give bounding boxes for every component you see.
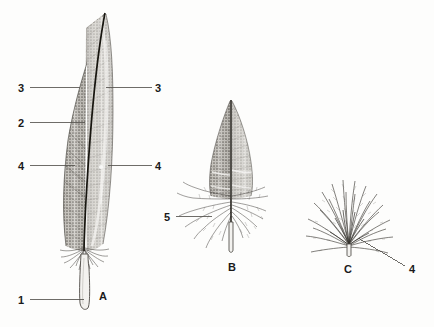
callout-a-4-right: 4	[155, 161, 161, 172]
callout-a-4-left: 4	[18, 161, 24, 172]
callout-a-3-left: 3	[18, 83, 24, 94]
feather-b-vane-right	[230, 96, 258, 204]
leader-c-4-right	[358, 238, 405, 266]
callout-c-4-right: 4	[409, 264, 415, 275]
plate-label-b: B	[228, 262, 236, 273]
plate-label-c: C	[344, 264, 352, 275]
plate-label-a: A	[99, 291, 107, 302]
callout-a-3-right: 3	[155, 83, 161, 94]
feather-b-group	[177, 96, 268, 252]
feather-anatomy-figure: 3 3 2 4 4 1 5 4 A B C	[0, 0, 434, 327]
feather-illustration-svg	[0, 0, 434, 327]
feather-b-vane-left	[205, 96, 233, 204]
callout-a-2-left: 2	[18, 118, 24, 129]
callout-b-5-left: 5	[164, 212, 170, 223]
feather-a-calamus	[80, 254, 90, 309]
feather-c-calamus	[347, 244, 351, 257]
callout-a-1-left: 1	[18, 295, 24, 306]
feather-b-calamus	[229, 222, 233, 252]
feather-c-group	[306, 180, 393, 257]
feather-a-group	[58, 10, 117, 309]
